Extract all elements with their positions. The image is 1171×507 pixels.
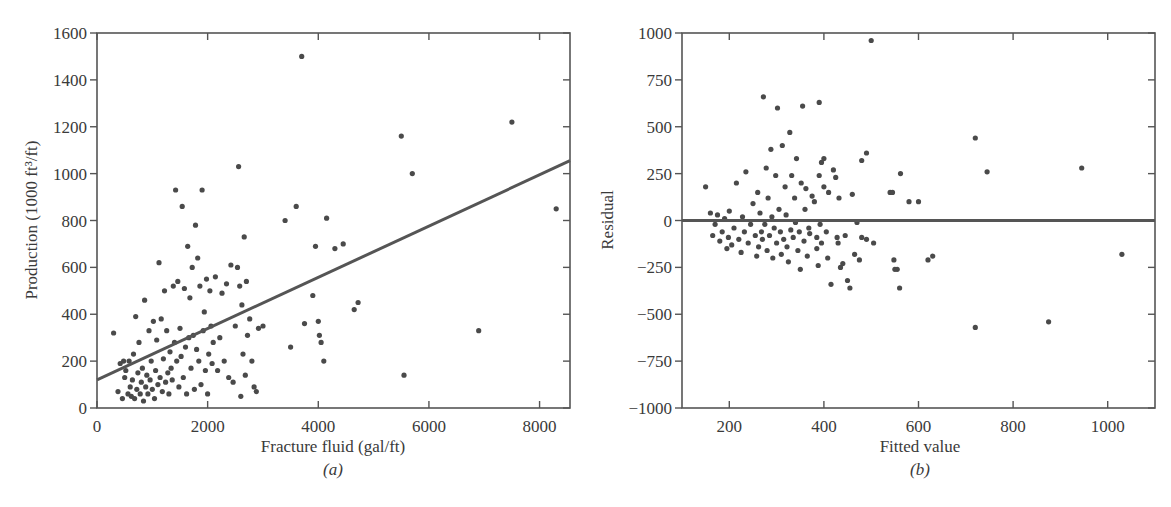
data-point: [973, 325, 978, 330]
data-point: [228, 262, 233, 267]
data-point: [717, 239, 722, 244]
data-point: [770, 255, 775, 260]
data-point: [897, 285, 902, 290]
data-point: [743, 169, 748, 174]
data-point: [727, 209, 732, 214]
data-point: [835, 235, 840, 240]
data-point: [156, 260, 161, 265]
data-point: [356, 300, 361, 305]
data-point: [476, 328, 481, 333]
data-point: [224, 281, 229, 286]
data-point: [332, 246, 337, 251]
data-point: [740, 214, 745, 219]
data-point: [803, 186, 808, 191]
chart-b-y-axis-title: Residual: [598, 190, 617, 250]
x-tick-label: 800: [1000, 417, 1026, 436]
data-point: [138, 391, 143, 396]
data-point: [170, 377, 175, 382]
data-point: [756, 244, 761, 249]
data-point: [871, 240, 876, 245]
data-point: [222, 359, 227, 364]
data-point: [801, 239, 806, 244]
data-point: [797, 229, 802, 234]
data-point: [207, 288, 212, 293]
data-point: [173, 187, 178, 192]
data-point: [840, 261, 845, 266]
x-tick-label: 4000: [301, 417, 335, 436]
y-tick-label: 250: [647, 165, 673, 184]
data-point: [814, 246, 819, 251]
data-point: [898, 171, 903, 176]
data-point: [784, 212, 789, 217]
data-point: [206, 352, 211, 357]
data-point: [299, 54, 304, 59]
data-point: [134, 387, 139, 392]
data-point: [724, 246, 729, 251]
data-point: [317, 333, 322, 338]
data-point: [152, 396, 157, 401]
data-point: [177, 326, 182, 331]
data-point: [133, 314, 138, 319]
data-point: [185, 244, 190, 249]
data-point: [164, 328, 169, 333]
y-tick-label: 750: [647, 71, 673, 90]
data-point: [739, 250, 744, 255]
data-point: [847, 285, 852, 290]
data-point: [184, 391, 189, 396]
data-point: [795, 248, 800, 253]
chart-b-x-ticks: 2004006008001000: [717, 33, 1125, 436]
data-point: [787, 130, 792, 135]
data-point: [401, 373, 406, 378]
data-point: [181, 375, 186, 380]
data-point: [726, 235, 731, 240]
data-point: [916, 199, 921, 204]
data-point: [755, 190, 760, 195]
data-point: [324, 216, 329, 221]
data-point: [760, 237, 765, 242]
data-point: [245, 333, 250, 338]
chart-a-y-ticks: 02004006008001000120014001600: [53, 24, 570, 418]
data-point: [775, 105, 780, 110]
x-tick-label: 2000: [191, 417, 225, 436]
data-point: [145, 391, 150, 396]
data-point: [153, 368, 158, 373]
data-point: [761, 94, 766, 99]
data-point: [826, 190, 831, 195]
x-tick-label: 1000: [1091, 417, 1125, 436]
y-tick-label: 0: [664, 212, 673, 231]
data-point: [142, 298, 147, 303]
data-point: [237, 284, 242, 289]
data-point: [146, 328, 151, 333]
data-point: [310, 293, 315, 298]
y-tick-label: 1600: [53, 24, 87, 43]
data-point: [190, 265, 195, 270]
data-point: [130, 377, 135, 382]
data-point: [128, 384, 133, 389]
data-point: [773, 173, 778, 178]
data-point: [242, 234, 247, 239]
data-point: [781, 237, 786, 242]
y-tick-label: 600: [62, 258, 88, 277]
data-point: [143, 384, 148, 389]
data-point: [864, 150, 869, 155]
data-point: [162, 288, 167, 293]
data-point: [316, 319, 321, 324]
data-point: [160, 389, 165, 394]
data-point: [235, 265, 240, 270]
data-point: [171, 284, 176, 289]
data-point: [783, 184, 788, 189]
data-point: [852, 252, 857, 257]
data-point: [111, 330, 116, 335]
data-point: [151, 319, 156, 324]
y-tick-label: −500: [637, 305, 672, 324]
data-point: [399, 134, 404, 139]
y-tick-label: −1000: [628, 399, 672, 418]
data-point: [200, 187, 205, 192]
data-point: [713, 222, 718, 227]
data-point: [240, 352, 245, 357]
data-point: [703, 184, 708, 189]
data-point: [198, 382, 203, 387]
data-point: [776, 207, 781, 212]
data-point: [341, 241, 346, 246]
data-point: [772, 225, 777, 230]
